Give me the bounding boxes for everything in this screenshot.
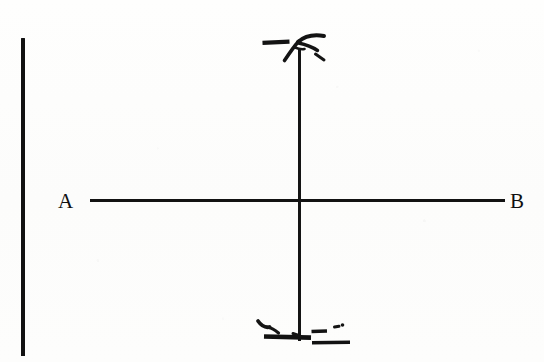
bottom-ink-marks-strokes <box>255 314 353 352</box>
page-edge-bar <box>21 38 25 356</box>
bottom-ink-marks <box>255 314 353 352</box>
top-ink-marks <box>258 30 340 66</box>
axis-label-a: A <box>58 191 74 212</box>
top-ink-marks-strokes <box>258 30 340 66</box>
axis-label-b: B <box>510 191 525 212</box>
figure-canvas: A B <box>0 0 544 362</box>
vertical-axis-line <box>298 48 301 341</box>
